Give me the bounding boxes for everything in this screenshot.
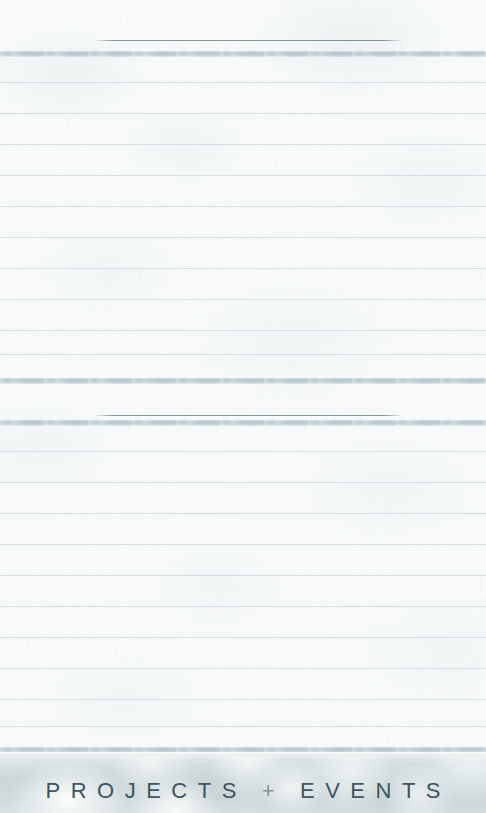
rule-line (0, 175, 486, 176)
rule-line (0, 575, 486, 576)
upper-section-closing-band (0, 378, 486, 384)
rule-line (0, 699, 486, 700)
rule-line (0, 544, 486, 545)
notepad-page: PROJECTS + EVENTS (0, 0, 486, 813)
rule-line (0, 451, 486, 452)
rule-line (0, 113, 486, 114)
upper-section-opening-band (0, 51, 486, 57)
rule-line (0, 268, 486, 269)
rule-line (0, 482, 486, 483)
rule-line (0, 637, 486, 638)
rule-line (0, 726, 486, 727)
projects-events-footer: PROJECTS + EVENTS (0, 752, 486, 813)
lower-section-hairline (95, 415, 402, 416)
rule-line (0, 606, 486, 607)
footer-title: PROJECTS + EVENTS (0, 778, 486, 804)
rule-line (0, 513, 486, 514)
upper-section-hairline (95, 40, 402, 41)
footer-title-plus-separator: + (247, 778, 300, 803)
rule-line (0, 82, 486, 83)
rule-line (0, 668, 486, 669)
rule-line (0, 354, 486, 355)
paper-background (0, 0, 486, 813)
rule-line (0, 144, 486, 145)
rule-line (0, 330, 486, 331)
lower-section-opening-band (0, 420, 486, 426)
footer-title-projects: PROJECTS (45, 778, 246, 803)
footer-top-edge-highlight (0, 752, 486, 757)
rule-line (0, 237, 486, 238)
rule-line (0, 206, 486, 207)
footer-title-events: EVENTS (300, 778, 451, 803)
rule-line (0, 299, 486, 300)
